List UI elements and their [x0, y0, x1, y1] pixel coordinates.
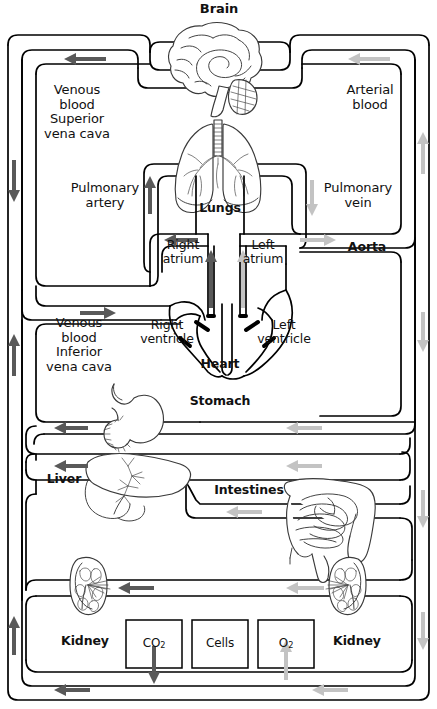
arrow-arterial-intestines: [226, 506, 262, 518]
co2-box-label: CO2: [126, 637, 182, 651]
o2-box-text: O: [279, 636, 288, 650]
label-arterial-blood: Arterial blood: [320, 83, 420, 112]
label-kidney-left: Kidney: [56, 634, 114, 648]
label-right-atrium: Right atrium: [150, 238, 216, 266]
co2-box-text: CO: [143, 636, 161, 650]
arrow-venous-ivc-up: [8, 334, 20, 376]
label-right-ventricle: Right ventricle: [134, 318, 200, 346]
label-aorta: Aorta: [336, 240, 398, 254]
label-pulmonary-artery: Pulmonary artery: [57, 181, 153, 210]
brain-illustration: [169, 23, 262, 117]
lungs-illustration: [175, 120, 261, 213]
label-brain: Brain: [183, 2, 255, 17]
cells-box-text: Cells: [206, 636, 234, 650]
label-heart: Heart: [188, 357, 252, 371]
arrow-arterial-stomach: [286, 422, 322, 434]
stomach-illustration: [104, 384, 163, 452]
label-intestines: Intestines: [203, 483, 295, 497]
arrow-arterial-liver: [286, 460, 322, 472]
arrow-arterial-aorta-down: [417, 312, 429, 352]
arrow-arterial-ascend: [417, 132, 429, 174]
label-venous-inferior: Venous blood Inferior vena cava: [27, 316, 131, 374]
label-left-ventricle: Left ventricle: [252, 318, 316, 346]
kidney-left-illustration: [70, 557, 110, 614]
co2-box-subscript: 2: [160, 640, 165, 650]
o2-box-label: O2: [258, 637, 314, 651]
arrow-venous-svc-down: [8, 160, 20, 202]
label-kidney-right: Kidney: [328, 634, 386, 648]
arrow-venous-stomach: [54, 422, 88, 434]
liver-illustration: [85, 453, 190, 521]
label-liver: Liver: [36, 472, 92, 486]
arrow-arterial-bottom-down: [417, 612, 429, 650]
cells-box-label: Cells: [192, 637, 248, 650]
arrow-arterial-kidney: [286, 582, 324, 594]
circulatory-system-diagram: .v{fill:none;stroke:#000;stroke-width:1.…: [0, 0, 437, 709]
label-left-atrium: Left atrium: [232, 238, 294, 266]
o2-box-subscript: 2: [288, 640, 293, 650]
arrow-venous-kidney: [118, 582, 154, 594]
arrow-arterial-aorta-low: [417, 490, 429, 528]
label-stomach: Stomach: [178, 394, 262, 408]
label-lungs: Lungs: [185, 201, 255, 215]
arrow-venous-bottom-up: [8, 616, 20, 655]
kidney-right-illustration: [326, 557, 366, 614]
label-pulmonary-vein: Pulmonary vein: [310, 181, 406, 210]
label-venous-superior: Venous blood Superior vena cava: [22, 83, 132, 141]
